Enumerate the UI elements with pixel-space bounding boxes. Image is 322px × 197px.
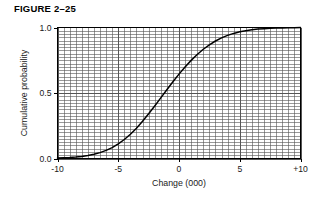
x-tick-label: -10 bbox=[51, 164, 64, 174]
x-tick-label: +10 bbox=[293, 164, 308, 174]
x-axis-title: Change (000) bbox=[152, 178, 206, 188]
x-tick-label: 5 bbox=[237, 164, 242, 174]
figure-container: FIGURE 2–25 -10-505+10 0.00.51.0 Change … bbox=[0, 0, 322, 197]
x-tick-label: -5 bbox=[114, 164, 122, 174]
y-tick-label: 0.5 bbox=[40, 88, 52, 98]
y-axis-title: Cumulative probability bbox=[19, 49, 29, 136]
x-axis-tick-labels: -10-505+10 bbox=[51, 164, 308, 174]
y-tick-label: 0.0 bbox=[40, 154, 52, 164]
cumulative-probability-chart: -10-505+10 0.00.51.0 Change (000) Cumula… bbox=[0, 0, 322, 197]
y-tick-label: 1.0 bbox=[40, 23, 52, 33]
x-tick-label: 0 bbox=[177, 164, 182, 174]
y-axis-tick-labels: 0.00.51.0 bbox=[40, 23, 52, 164]
